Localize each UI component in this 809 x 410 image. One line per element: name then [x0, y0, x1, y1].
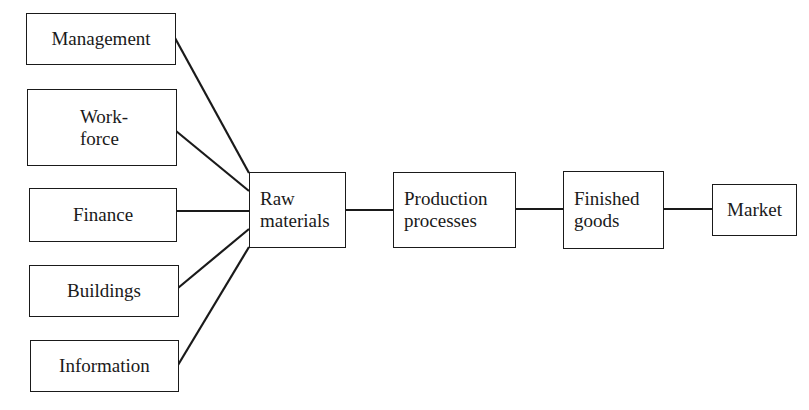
box-label: Production processes — [404, 188, 487, 232]
box-label: Market — [727, 199, 782, 221]
box-label: Work- force — [76, 106, 128, 150]
box-market: Market — [712, 184, 797, 236]
box-information: Information — [30, 340, 179, 392]
box-label: Information — [59, 355, 150, 377]
box-label: Finished goods — [574, 188, 639, 232]
box-label: Management — [51, 28, 150, 50]
edge-workforce-raw-materials — [176, 131, 249, 191]
box-workforce: Work- force — [27, 89, 177, 166]
edge-information-raw-materials — [178, 247, 249, 365]
box-production-processes: Production processes — [393, 172, 516, 248]
box-label: Buildings — [67, 280, 141, 302]
box-finished-goods: Finished goods — [563, 171, 664, 249]
edge-management-raw-materials — [175, 38, 249, 173]
box-finance: Finance — [29, 188, 177, 242]
box-label: Finance — [73, 204, 133, 226]
edge-buildings-raw-materials — [178, 229, 249, 288]
box-buildings: Buildings — [29, 265, 179, 317]
box-label: Raw materials — [260, 188, 330, 232]
box-raw-materials: Raw materials — [249, 172, 346, 248]
box-management: Management — [26, 13, 176, 65]
